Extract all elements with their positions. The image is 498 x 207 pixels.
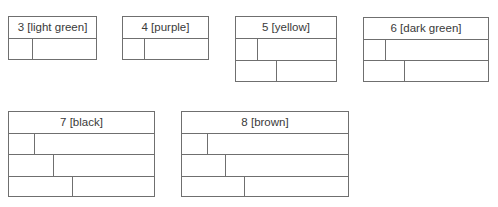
row-divider xyxy=(385,40,386,60)
box-row xyxy=(9,176,154,196)
box-label: 6 [dark green] xyxy=(364,18,488,39)
box-label: 4 [purple] xyxy=(123,17,208,38)
box-row xyxy=(236,60,336,81)
row-divider xyxy=(404,61,405,81)
box-row xyxy=(9,133,154,154)
box-label: 8 [brown] xyxy=(182,112,348,133)
row-divider xyxy=(207,134,208,154)
row-divider xyxy=(34,134,35,154)
box-label: 5 [yellow] xyxy=(236,17,336,38)
row-divider xyxy=(225,155,226,176)
row-divider xyxy=(53,155,54,176)
box-black: 7 [black] xyxy=(8,111,155,197)
box-dark-green: 6 [dark green] xyxy=(363,17,489,82)
box-row xyxy=(123,38,208,59)
box-row xyxy=(9,38,96,59)
box-brown: 8 [brown] xyxy=(181,111,349,197)
row-divider xyxy=(144,39,145,59)
box-row xyxy=(364,60,488,81)
box-row xyxy=(9,154,154,176)
row-divider xyxy=(72,177,73,196)
box-yellow: 5 [yellow] xyxy=(235,16,337,82)
box-label: 7 [black] xyxy=(9,112,154,133)
row-divider xyxy=(257,39,258,60)
box-row xyxy=(182,133,348,154)
box-purple: 4 [purple] xyxy=(122,16,209,60)
box-row xyxy=(236,38,336,60)
row-divider xyxy=(276,61,277,81)
box-light-green: 3 [light green] xyxy=(8,16,97,60)
box-label: 3 [light green] xyxy=(9,17,96,38)
box-row xyxy=(364,39,488,60)
box-row xyxy=(182,154,348,176)
box-row xyxy=(182,176,348,196)
row-divider xyxy=(32,39,33,59)
row-divider xyxy=(244,177,245,196)
